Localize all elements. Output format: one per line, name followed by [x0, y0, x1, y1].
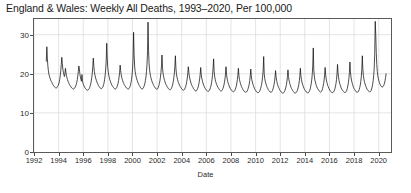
x-tick-mark [206, 153, 207, 156]
gridlines [34, 19, 391, 152]
x-tick-label: 2020 [370, 156, 387, 165]
x-tick-mark [157, 153, 158, 156]
x-tick-label: 1996 [75, 156, 92, 165]
y-tick-mark [30, 74, 33, 75]
x-tick-label: 2018 [346, 156, 363, 165]
x-tick-label: 2002 [149, 156, 166, 165]
y-tick-mark [30, 35, 33, 36]
chart-title: England & Wales: Weekly All Deaths, 1993… [6, 2, 292, 14]
y-tick-label: 20 [20, 69, 29, 78]
x-tick-label: 2004 [173, 156, 190, 165]
x-tick-mark [83, 153, 84, 156]
x-tick-mark [182, 153, 183, 156]
x-tick-mark [379, 153, 380, 156]
plot-area [33, 18, 392, 153]
x-tick-mark [231, 153, 232, 156]
x-tick-mark [132, 153, 133, 156]
x-tick-mark [256, 153, 257, 156]
plot-inner [34, 19, 391, 152]
y-axis: 0102030 [0, 0, 29, 193]
x-tick-label: 2000 [124, 156, 141, 165]
x-tick-mark [280, 153, 281, 156]
x-tick-mark [34, 153, 35, 156]
x-tick-label: 2008 [223, 156, 240, 165]
y-tick-label: 30 [20, 30, 29, 39]
chart-container: England & Wales: Weekly All Deaths, 1993… [0, 0, 411, 193]
x-tick-label: 2010 [247, 156, 264, 165]
x-tick-mark [59, 153, 60, 156]
x-axis-label: Date [0, 170, 411, 179]
x-tick-mark [108, 153, 109, 156]
x-tick-mark [354, 153, 355, 156]
x-tick-mark [329, 153, 330, 156]
x-tick-label: 2006 [198, 156, 215, 165]
x-tick-label: 1994 [50, 156, 67, 165]
y-tick-label: 10 [20, 108, 29, 117]
x-tick-mark [305, 153, 306, 156]
x-tick-label: 2012 [272, 156, 289, 165]
x-tick-label: 1998 [100, 156, 117, 165]
y-tick-mark [30, 113, 33, 114]
x-tick-label: 1992 [26, 156, 43, 165]
x-tick-label: 2014 [296, 156, 313, 165]
line-plot [34, 19, 391, 152]
y-tick-mark [30, 152, 33, 153]
series-line [46, 21, 386, 93]
x-tick-label: 2016 [321, 156, 338, 165]
